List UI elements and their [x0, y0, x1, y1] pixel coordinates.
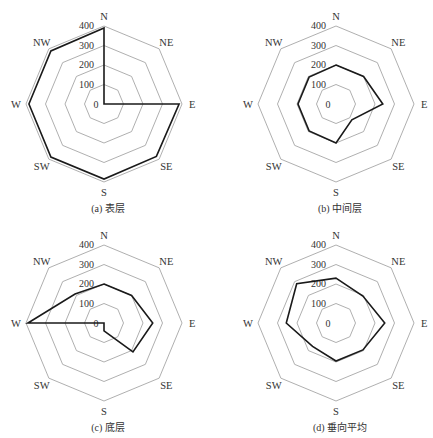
panel-b-middle: 0100200300400NNEESESSWWNW (b) 中间层: [232, 0, 433, 219]
radial-tick-label: 300: [311, 259, 326, 270]
radial-tick-label: 400: [311, 20, 326, 31]
direction-label-ne: NE: [391, 256, 405, 267]
radial-tick-label: 100: [79, 79, 94, 90]
radial-tick-label: 0: [326, 99, 331, 110]
radial-tick-label: 200: [79, 278, 94, 289]
caption-d: (d) 垂向平均: [232, 419, 433, 434]
direction-label-e: E: [189, 318, 195, 329]
data-series-polygon: [286, 278, 384, 361]
direction-label-n: N: [100, 11, 108, 22]
direction-label-se: SE: [392, 161, 404, 172]
direction-label-se: SE: [160, 161, 172, 172]
direction-label-w: W: [243, 318, 253, 329]
grid-ring-100: [317, 85, 356, 124]
radial-tick-label: 400: [79, 20, 94, 31]
grid-ring-100: [317, 304, 356, 343]
direction-label-n: N: [332, 11, 340, 22]
caption-b: (b) 中间层: [232, 200, 433, 215]
radial-tick-label: 300: [311, 40, 326, 51]
direction-label-n: N: [332, 230, 340, 241]
panel-a-surface: 0100200300400NNEESESSWWNW (a) 表层: [0, 0, 216, 219]
direction-label-sw: SW: [34, 161, 50, 172]
direction-label-ne: NE: [159, 256, 173, 267]
radial-tick-label: 100: [311, 79, 326, 90]
direction-label-nw: NW: [33, 37, 51, 48]
grid-ring-400: [258, 245, 414, 401]
direction-label-w: W: [243, 99, 253, 110]
grid-ring-400: [258, 26, 414, 182]
direction-label-ne: NE: [159, 37, 173, 48]
radial-tick-label: 100: [311, 298, 326, 309]
direction-label-s: S: [101, 406, 107, 417]
direction-label-sw: SW: [266, 161, 282, 172]
radial-tick-label: 100: [79, 298, 94, 309]
radar-chart-a: 0100200300400NNEESESSWWNW: [0, 0, 216, 200]
direction-label-nw: NW: [33, 256, 51, 267]
direction-label-w: W: [11, 99, 21, 110]
panel-c-bottom: 0100200300400NNEESESSWWNW (c) 底层: [0, 219, 216, 438]
direction-label-w: W: [11, 318, 21, 329]
radial-tick-label: 400: [311, 239, 326, 250]
panel-d-vertical-mean: 0100200300400NNEESESSWWNW (d) 垂向平均: [232, 219, 433, 438]
direction-label-nw: NW: [265, 37, 283, 48]
radial-tick-label: 200: [311, 59, 326, 70]
radial-tick-label: 400: [79, 239, 94, 250]
radial-tick-label: 200: [79, 59, 94, 70]
direction-label-sw: SW: [266, 380, 282, 391]
direction-label-nw: NW: [265, 256, 283, 267]
grid-ring-300: [278, 265, 395, 382]
direction-label-e: E: [421, 318, 427, 329]
radar-chart-b: 0100200300400NNEESESSWWNW: [232, 0, 433, 200]
direction-label-se: SE: [392, 380, 404, 391]
data-series-polygon: [28, 284, 153, 352]
direction-label-s: S: [101, 187, 107, 198]
direction-label-se: SE: [160, 380, 172, 391]
data-series-polygon: [298, 65, 383, 143]
direction-label-e: E: [421, 99, 427, 110]
direction-label-n: N: [100, 230, 108, 241]
radial-tick-label: 300: [79, 40, 94, 51]
direction-label-e: E: [189, 99, 195, 110]
grid-ring-300: [278, 46, 395, 163]
direction-label-ne: NE: [391, 37, 405, 48]
radar-chart-d: 0100200300400NNEESESSWWNW: [232, 219, 433, 419]
direction-label-s: S: [333, 406, 339, 417]
caption-a: (a) 表层: [0, 200, 216, 215]
direction-label-sw: SW: [34, 380, 50, 391]
direction-label-s: S: [333, 187, 339, 198]
radial-tick-label: 0: [94, 99, 99, 110]
data-series-polygon: [29, 28, 179, 179]
radar-chart-c: 0100200300400NNEESESSWWNW: [0, 219, 216, 419]
caption-c: (c) 底层: [0, 419, 216, 434]
radial-tick-label: 300: [79, 259, 94, 270]
radial-tick-label: 0: [326, 318, 331, 329]
